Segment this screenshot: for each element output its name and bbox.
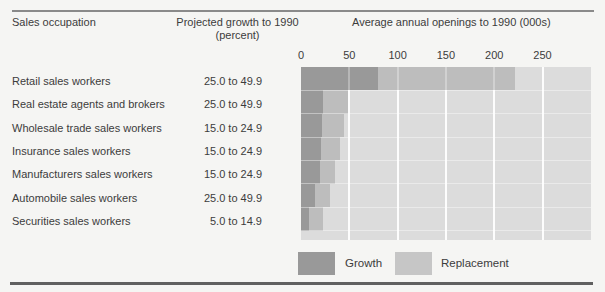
occupation-label: Wholesale trade sales workers <box>12 121 162 135</box>
x-axis-tick-label: 150 <box>437 49 455 61</box>
occupation-label: Automobile sales workers <box>12 191 137 205</box>
row-separator-line <box>301 230 591 231</box>
vertical-gridline-overlay <box>348 67 350 240</box>
x-axis-tick-label: 50 <box>343 49 355 61</box>
replacement-bar-segment <box>315 184 330 207</box>
vertical-gridline-overlay <box>445 67 447 240</box>
legend-growth-swatch <box>298 252 335 275</box>
x-axis-tick-label: 200 <box>485 49 503 61</box>
bar-row <box>301 137 340 160</box>
x-axis-tick-label: 0 <box>298 49 304 61</box>
legend-replacement-swatch <box>395 252 432 275</box>
growth-bar-segment <box>301 67 378 90</box>
growth-percent-value: 15.0 to 24.9 <box>160 144 262 158</box>
x-axis-tick-label: 250 <box>533 49 551 61</box>
growth-percent-value: 25.0 to 49.9 <box>160 191 262 205</box>
growth-bar-segment <box>301 160 320 183</box>
growth-percent-value: 25.0 to 49.9 <box>160 97 262 111</box>
occupation-label: Securities sales workers <box>12 214 131 228</box>
bar-row <box>301 67 515 90</box>
bar-row <box>301 90 348 113</box>
legend-growth-label: Growth <box>345 252 382 275</box>
row-separator-line <box>301 160 591 161</box>
replacement-bar-segment <box>323 90 348 113</box>
growth-bar-segment <box>301 137 321 160</box>
vertical-gridline-overlay <box>542 67 544 240</box>
replacement-bar-segment <box>322 114 344 137</box>
occupation-label: Retail sales workers <box>12 74 110 88</box>
row-separator-line <box>301 113 591 114</box>
replacement-bar-segment <box>321 137 339 160</box>
legend: Growth Replacement <box>298 252 598 275</box>
bar-row <box>301 114 344 137</box>
row-separator-line <box>301 90 591 91</box>
bar-row <box>301 184 330 207</box>
vertical-gridline-overlay <box>397 67 399 240</box>
growth-bar-segment <box>301 90 323 113</box>
occupation-table: Retail sales workers25.0 to 49.9Real est… <box>0 0 300 292</box>
growth-percent-value: 15.0 to 24.9 <box>160 121 262 135</box>
occupation-label: Real estate agents and brokers <box>12 97 165 111</box>
occupation-label: Insurance sales workers <box>12 144 131 158</box>
row-separator-line <box>301 183 591 184</box>
x-axis-ticks: 050100150200250 <box>301 49 591 63</box>
bottom-rule <box>10 282 593 285</box>
bar-row <box>301 207 323 230</box>
row-separator-line <box>301 137 591 138</box>
legend-replacement-label: Replacement <box>441 252 509 275</box>
vertical-gridline-overlay <box>493 67 495 240</box>
bar-chart-plot <box>301 67 591 240</box>
replacement-bar-segment <box>320 160 334 183</box>
growth-percent-value: 15.0 to 24.9 <box>160 167 262 181</box>
replacement-bar-segment <box>309 207 323 230</box>
header-average-annual-openings: Average annual openings to 1990 (000s) <box>352 16 551 29</box>
growth-bar-segment <box>301 207 309 230</box>
x-axis-tick-label: 100 <box>388 49 406 61</box>
growth-percent-value: 5.0 to 14.9 <box>160 214 262 228</box>
row-separator-line <box>301 207 591 208</box>
growth-bar-segment <box>301 114 322 137</box>
occupation-label: Manufacturers sales workers <box>12 167 153 181</box>
bar-row <box>301 160 335 183</box>
growth-bar-segment <box>301 184 315 207</box>
growth-percent-value: 25.0 to 49.9 <box>160 74 262 88</box>
